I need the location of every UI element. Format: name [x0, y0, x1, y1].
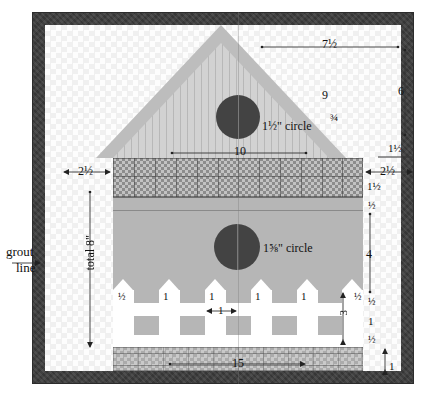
- dim-picket-height: 3: [338, 310, 349, 316]
- dim-gable-base-width: 10: [234, 145, 246, 157]
- dim-wall-top-strip: ½: [368, 201, 376, 211]
- dim-picket-top-gap: ½: [368, 297, 376, 307]
- dim-left-margin: 2½: [78, 165, 93, 177]
- picket-tip: [342, 279, 362, 290]
- dim-picket-width: 1: [218, 305, 224, 316]
- dim-top-right-horizontal: 7½: [322, 38, 337, 50]
- fence-gap-label-4: 1: [255, 291, 261, 302]
- grout-line-label-line2: line: [16, 261, 36, 276]
- dim-roof-slope: 9: [322, 89, 328, 101]
- dim-right-margin: 2½: [380, 165, 395, 177]
- dim-base-height: 1: [389, 361, 395, 372]
- picket-tip: [297, 279, 317, 290]
- wall-circle-label: 1⅝" circle: [263, 242, 313, 256]
- fence-gap-label-1: ½: [118, 292, 126, 302]
- picket-tip: [251, 279, 271, 290]
- fence-gap-label-3: 1: [209, 291, 215, 302]
- picket-tip: [205, 279, 225, 290]
- dim-rail-lower: ½: [368, 335, 376, 345]
- fence-gap-label-5: 1: [301, 291, 307, 302]
- dim-right-upper-vertical: 6: [398, 85, 404, 97]
- diagram-canvas: 7½ 6 9 ¾ 10 1½ 2½ 2½ 1½ ½ 4 ½ 1 ½ 1 15 t…: [0, 0, 443, 397]
- center-seam-line: [238, 12, 239, 384]
- roof-group: [96, 25, 346, 158]
- dim-band-height: 1½: [367, 181, 381, 192]
- fence-gap-label-2: 1: [163, 291, 169, 302]
- dim-total-height: total 8": [84, 235, 96, 270]
- dim-wall-main: 4: [366, 248, 372, 260]
- picket-tip: [159, 279, 179, 290]
- gable-circle-label: 1½" circle: [262, 120, 312, 134]
- fence-gap-label-6: ½: [354, 292, 362, 302]
- grout-line-label-line1: grout: [6, 245, 33, 260]
- dim-roof-thickness: ¾: [330, 112, 338, 123]
- dim-right-overhang: 1½: [388, 143, 402, 154]
- dim-rail-upper: 1: [368, 316, 374, 327]
- picket-tip: [113, 279, 133, 290]
- wall-entry-circle: [214, 224, 260, 270]
- dim-bottom-width: 15: [232, 357, 244, 369]
